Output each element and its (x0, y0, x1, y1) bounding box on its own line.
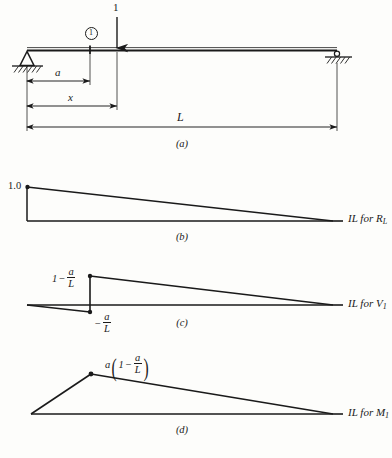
dimension-x-label: x (68, 92, 73, 103)
dimension-L-label: L (177, 111, 184, 123)
panel-d-il-label: IL for M1 (348, 407, 389, 420)
panel-c-pos-denominator: L (67, 278, 75, 289)
panel-c-caption: (c) (152, 318, 212, 329)
panel-d-peak-numerator: a (134, 352, 142, 364)
beam-member (27, 48, 337, 51)
right-roller-support (325, 51, 352, 63)
panel-b-il-reaction (25, 185, 343, 221)
panel-c-positive-value-label: 1−aL (52, 266, 75, 289)
panel-c-pos-numerator: a (67, 266, 75, 278)
dimension-a-label: a (55, 67, 61, 78)
panel-d-peak-fraction: aL (134, 352, 142, 375)
panel-c-il-label-prefix: IL for V (348, 297, 383, 309)
panel-b-caption: (b) (152, 232, 212, 243)
panel-c-negative-peak-marker (88, 310, 92, 314)
panel-c-positive-branch (90, 276, 333, 305)
panel-b-peak-value-label: 1.0 (8, 181, 21, 192)
section-1-circle-marker: 1 (85, 27, 98, 40)
panel-c-pos-operator: − (57, 273, 67, 284)
panel-c-neg-fraction: aL (103, 311, 111, 334)
panel-c-positive-peak-marker (88, 274, 92, 278)
left-pin-support (12, 52, 43, 73)
panel-c-neg-denominator: L (103, 323, 111, 334)
panel-b-peak-marker (25, 185, 29, 189)
unit-load-label: 1 (113, 2, 119, 13)
panel-d-caption: (d) (152, 425, 212, 436)
panel-d-peak-denominator: L (134, 364, 142, 375)
panel-d-peak-operator: − (124, 359, 134, 370)
panel-b-il-label-subscript: L (383, 217, 387, 226)
panel-c-negative-branch (27, 305, 90, 312)
panel-d-il-label-prefix: IL for M (348, 406, 385, 418)
panel-b-il-label-prefix: IL for R (348, 212, 383, 224)
open-paren-icon: ( (112, 355, 117, 380)
panel-d-peak-value-label: a(1−aL) (105, 352, 150, 380)
panel-d-peak-coefficient: a (105, 359, 110, 370)
panel-b-influence-line (27, 187, 333, 221)
panel-d-il-moment (31, 372, 343, 414)
panel-c-il-label-subscript: 1 (383, 302, 387, 311)
panel-d-peak-marker (89, 372, 94, 377)
panel-d-il-label-subscript: 1 (385, 411, 389, 420)
panel-d-rising-branch (31, 374, 91, 414)
panel-c-neg-operator: − (95, 318, 103, 329)
panel-d-falling-branch (91, 374, 333, 414)
influence-line-figure: 1 1 a x L (a) 1.0 IL for RL (b) 1−aL −aL… (0, 0, 392, 458)
panel-a-caption: (a) (152, 139, 212, 150)
panel-c-negative-value-label: −aL (95, 311, 111, 334)
panel-c-il-label: IL for V1 (348, 298, 387, 311)
panel-b-il-label: IL for RL (348, 213, 387, 226)
panel-c-neg-numerator: a (103, 311, 111, 323)
panel-c-pos-fraction: aL (67, 266, 75, 289)
close-paren-icon: ) (143, 355, 148, 380)
